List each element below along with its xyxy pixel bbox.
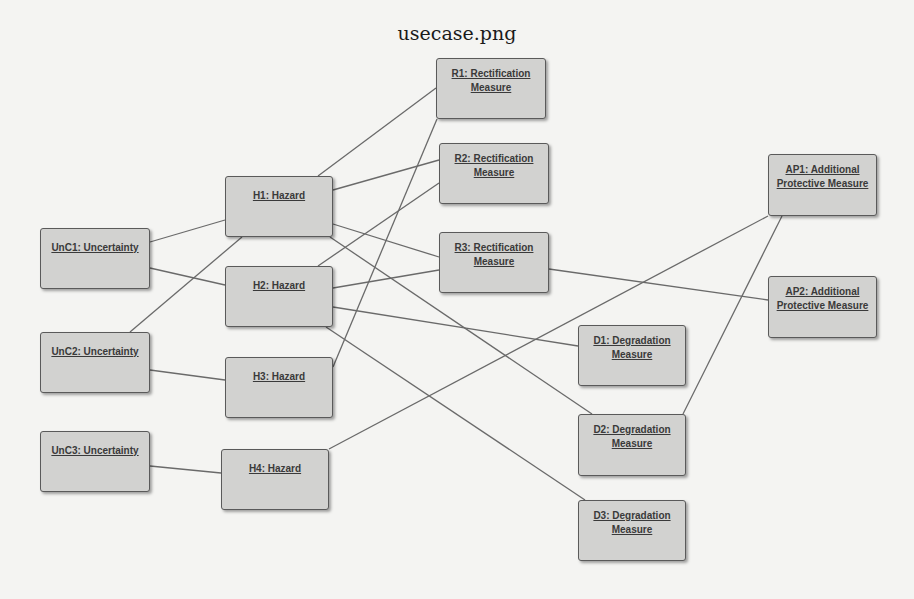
- node-r2-rectification-measure[interactable]: R2: Rectification Measure: [439, 143, 549, 204]
- node-label-line2: Measure: [612, 523, 653, 537]
- node-ap1-additional-protective-measure[interactable]: AP1: Additional Protective Measure: [768, 154, 877, 216]
- edge-unc1-h1: [150, 220, 225, 242]
- edge-h2-d1: [333, 307, 578, 346]
- node-label: UnC3: Uncertainty: [51, 444, 138, 458]
- edge-unc2-h3: [150, 370, 225, 380]
- node-label: AP2: Additional: [785, 285, 859, 299]
- node-label-line2: Measure: [612, 437, 653, 451]
- node-unc2-uncertainty[interactable]: UnC2: Uncertainty: [40, 332, 150, 393]
- node-label: UnC2: Uncertainty: [51, 345, 138, 359]
- node-label: H4: Hazard: [249, 462, 301, 476]
- edge-h2-d3: [326, 327, 585, 500]
- node-h4-hazard[interactable]: H4: Hazard: [221, 449, 329, 510]
- node-unc1-uncertainty[interactable]: UnC1: Uncertainty: [40, 228, 150, 289]
- node-d1-degradation-measure[interactable]: D1: Degradation Measure: [578, 325, 686, 386]
- node-d2-degradation-measure[interactable]: D2: Degradation Measure: [578, 414, 686, 476]
- node-label-line2: Measure: [471, 81, 512, 95]
- node-label: R1: Rectification: [452, 67, 531, 81]
- edge-h2-r3: [333, 270, 439, 288]
- node-label: H1: Hazard: [253, 189, 305, 203]
- edge-h3-r1: [333, 119, 437, 367]
- node-label: H3: Hazard: [253, 370, 305, 384]
- node-label-line2: Protective Measure: [777, 299, 869, 313]
- node-r1-rectification-measure[interactable]: R1: Rectification Measure: [436, 58, 546, 119]
- node-label: D3: Degradation: [593, 509, 670, 523]
- node-label: UnC1: Uncertainty: [51, 241, 138, 255]
- node-r3-rectification-measure[interactable]: R3: Rectification Measure: [439, 232, 549, 293]
- node-h1-hazard[interactable]: H1: Hazard: [225, 176, 333, 237]
- node-label-line2: Protective Measure: [777, 177, 869, 191]
- node-label-line2: Measure: [612, 348, 653, 362]
- node-ap2-additional-protective-measure[interactable]: AP2: Additional Protective Measure: [768, 276, 877, 338]
- node-label-line2: Measure: [474, 255, 515, 269]
- node-unc3-uncertainty[interactable]: UnC3: Uncertainty: [40, 431, 150, 492]
- node-label: R3: Rectification: [455, 241, 534, 255]
- node-h3-hazard[interactable]: H3: Hazard: [225, 357, 333, 418]
- node-label: H2: Hazard: [253, 279, 305, 293]
- node-label-line2: Measure: [474, 166, 515, 180]
- node-d3-degradation-measure[interactable]: D3: Degradation Measure: [578, 500, 686, 561]
- edge-h1-r2: [333, 160, 439, 190]
- node-h2-hazard[interactable]: H2: Hazard: [225, 266, 333, 327]
- node-label: D2: Degradation: [593, 423, 670, 437]
- edge-unc3-h4: [150, 466, 221, 473]
- node-label: AP1: Additional: [785, 163, 859, 177]
- node-label: R2: Rectification: [455, 152, 534, 166]
- node-label: D1: Degradation: [593, 334, 670, 348]
